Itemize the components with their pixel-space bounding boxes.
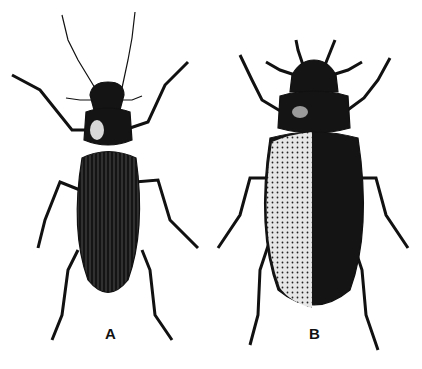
specimen-label-a: A [105,325,116,342]
beetle-illustration [0,0,422,369]
beetle-figure: A B [0,0,422,369]
beetle-a [12,12,198,340]
specimen-label-b: B [309,325,320,342]
beetle-b [218,40,408,350]
